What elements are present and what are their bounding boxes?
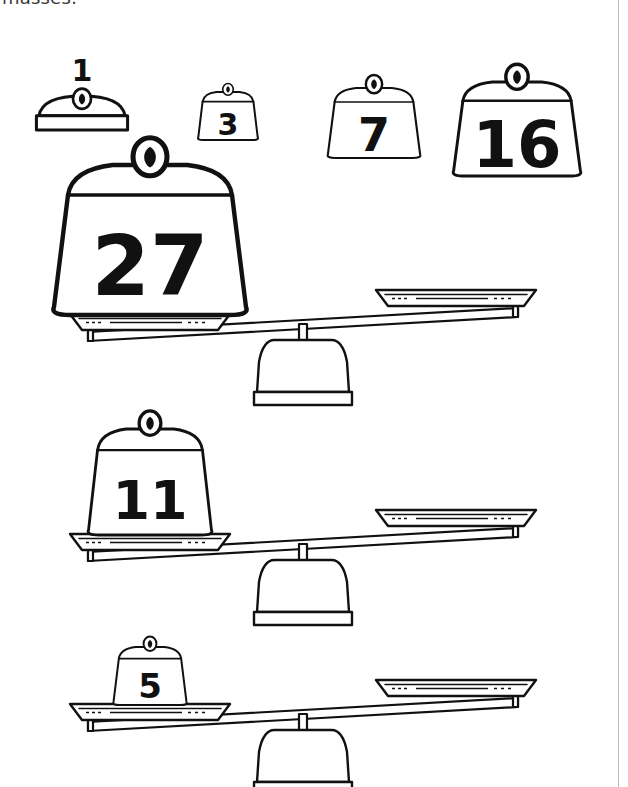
pan-right (376, 510, 536, 526)
pan-left-mass: 5 (113, 637, 186, 706)
pan-left-mass: 11 (88, 411, 212, 535)
pan-left-mass: 27 (53, 138, 246, 315)
pan-left (70, 704, 230, 720)
fulcrum-base (254, 612, 352, 625)
mass-value: 27 (92, 217, 209, 315)
fulcrum-dome (257, 560, 349, 612)
balance-2: 11 (70, 411, 536, 625)
fulcrum-dome (257, 730, 349, 782)
fulcrum-dome (257, 340, 349, 392)
balance-scales-group: 27115 (0, 0, 628, 787)
balance-3: 5 (70, 637, 536, 787)
balance-1: 27 (53, 138, 536, 405)
pan-right (376, 290, 536, 306)
pan-right (376, 680, 536, 696)
fulcrum-base (254, 782, 352, 787)
mass-value: 11 (112, 469, 187, 532)
mass-value: 5 (138, 666, 162, 706)
worksheet-page: masses: 13716 27115 (0, 0, 628, 787)
fulcrum-base (254, 392, 352, 405)
